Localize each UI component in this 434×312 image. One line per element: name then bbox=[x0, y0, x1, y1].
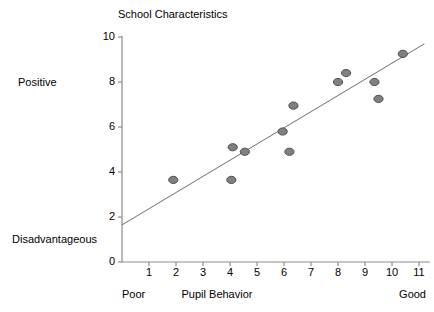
data-point-marker bbox=[169, 176, 178, 183]
data-point-marker bbox=[227, 176, 236, 183]
data-point-marker bbox=[240, 148, 249, 155]
axes bbox=[118, 36, 430, 266]
data-point-marker bbox=[374, 95, 383, 102]
trend-line bbox=[122, 44, 424, 225]
regression-line bbox=[122, 44, 424, 225]
data-point-marker bbox=[278, 128, 287, 135]
data-point-marker bbox=[398, 50, 407, 57]
data-point-marker bbox=[285, 148, 294, 155]
data-points bbox=[169, 50, 408, 183]
scatter-plot-figure: School Characteristics Positive Disadvan… bbox=[0, 0, 434, 312]
data-point-marker bbox=[228, 144, 237, 151]
data-point-marker bbox=[370, 78, 379, 85]
data-point-marker bbox=[333, 78, 342, 85]
data-point-marker bbox=[289, 102, 298, 109]
plot-area bbox=[0, 0, 434, 312]
data-point-marker bbox=[342, 69, 351, 76]
x-axis-high-label: Good bbox=[0, 288, 426, 300]
